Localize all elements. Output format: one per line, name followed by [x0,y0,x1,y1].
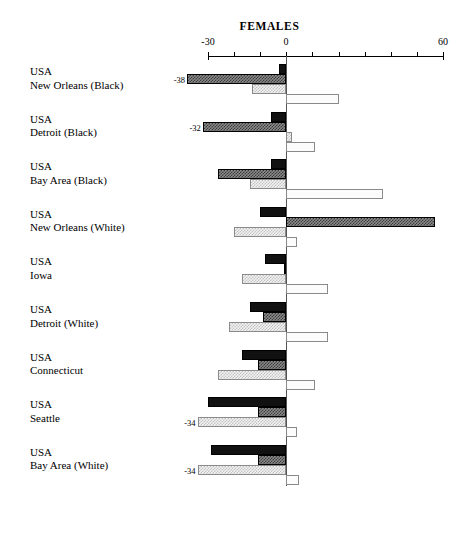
bar [286,217,435,227]
bar [258,360,287,370]
bar-value-label: -32 [189,123,202,133]
category-label-country: USA [30,160,107,174]
axis-tick [312,52,313,56]
category-label-country: USA [30,255,52,269]
bar [286,189,383,199]
category-label: USASeattle [30,398,60,425]
bar [242,350,286,360]
category-label-region: Bay Area (White) [30,459,108,473]
bar [271,112,287,122]
bar [260,207,286,217]
category-label: USABay Area (Black) [30,160,107,187]
category-label-region: Iowa [30,269,52,283]
bar [187,74,286,84]
bar [218,169,286,179]
category-label: USADetroit (White) [30,303,98,330]
category-label-country: USA [30,303,98,317]
bar [286,284,328,294]
axis-tick [260,52,261,56]
bar [250,179,287,189]
axis-tick-endcap [443,56,444,60]
category-label-country: USA [30,208,125,222]
axis-tick [339,52,340,56]
category-label-country: USA [30,351,83,365]
bar [252,84,286,94]
bar [258,407,287,417]
bar [242,274,286,284]
category-label-country: USA [30,446,108,460]
category-label: USABay Area (White) [30,446,108,473]
bar-value-label: -38 [174,75,187,85]
category-label-region: New Orleans (Black) [30,79,123,93]
axis-tick-label: -30 [201,36,214,47]
category-label: USAIowa [30,255,52,282]
category-label-region: Detroit (Black) [30,126,97,140]
bar [263,312,287,322]
category-label: USAConnecticut [30,351,83,378]
category-label-region: Detroit (White) [30,317,98,331]
axis-tick-endcap [208,56,209,60]
bar [286,427,296,437]
bar-value-label: -34 [184,418,197,428]
bar-value-label: -34 [184,466,197,476]
category-label-country: USA [30,113,97,127]
bar [286,132,291,142]
bar [286,237,296,247]
bar [265,254,286,264]
bar [271,159,287,169]
bar [284,264,287,274]
bar [229,322,286,332]
category-label: USANew Orleans (White) [30,208,125,235]
bar [250,302,287,312]
category-label-region: Connecticut [30,364,83,378]
axis-tick-label: 60 [438,36,448,47]
category-label-region: Bay Area (Black) [30,174,107,188]
bar [286,142,315,152]
category-label-region: New Orleans (White) [30,221,125,235]
category-label-country: USA [30,398,60,412]
bar [198,465,287,475]
bar [286,475,299,485]
category-label-country: USA [30,65,123,79]
axis-tick [234,52,235,56]
chart-root: FEMALES -30060 USANew Orleans (Black)USA… [0,0,461,535]
category-label: USADetroit (Black) [30,113,97,140]
bar [286,332,328,342]
bar [286,94,338,104]
bar [234,227,286,237]
bar [279,64,287,74]
bar [203,122,287,132]
bar [218,370,286,380]
bar [258,455,287,465]
axis-tick [365,52,366,56]
category-label-region: Seattle [30,412,60,426]
axis-tick-label: 0 [284,36,289,47]
category-label: USANew Orleans (Black) [30,65,123,92]
bar [211,445,287,455]
axis-tick [417,52,418,56]
bar [208,397,286,407]
axis-line [208,56,443,57]
bar [198,417,287,427]
bar [286,380,315,390]
axis-tick [391,52,392,56]
